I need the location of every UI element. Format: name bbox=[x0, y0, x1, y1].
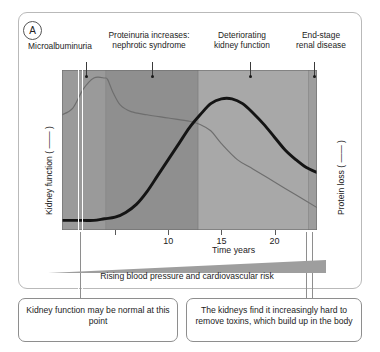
callout-kidney-function-normal: Kidney function may be normal at this po… bbox=[18, 298, 178, 342]
x-axis-tick-0 bbox=[115, 230, 116, 235]
y-axis-left-label: Kidney function ( —— ) bbox=[44, 126, 54, 215]
stage-leader-line-3 bbox=[314, 62, 315, 76]
stage-band-2 bbox=[198, 70, 309, 230]
stage-label-proteinuria: Proteinuria increases: nephrotic syndrom… bbox=[101, 30, 197, 50]
x-axis-tick-label-20: 20 bbox=[261, 236, 289, 246]
stage-leader-line-0 bbox=[86, 62, 87, 76]
stage-leader-line-2 bbox=[250, 62, 251, 76]
stage-leader-dot-1 bbox=[151, 75, 154, 78]
x-axis-tick-label-10: 10 bbox=[154, 236, 182, 246]
plot-svg bbox=[62, 70, 317, 230]
stage-label-microalbuminuria: Microalbuminuria bbox=[18, 41, 102, 51]
x-axis-caption: Time years bbox=[212, 245, 255, 255]
x-axis-tick-2 bbox=[221, 230, 222, 235]
risk-wedge-caption: Rising blood pressure and cardiovascular… bbox=[62, 271, 312, 281]
panel-letter-badge: A bbox=[23, 21, 42, 40]
stage-leader-dot-0 bbox=[85, 75, 88, 78]
figure-root: A Microalbuminuria Proteinuria increases… bbox=[0, 0, 380, 352]
stage-band-3 bbox=[309, 70, 318, 230]
stage-label-deteriorating-kidney-function: Deteriorating kidney function bbox=[203, 30, 281, 50]
x-axis-tick-3 bbox=[275, 230, 276, 235]
x-axis-tick-1 bbox=[168, 230, 169, 235]
callout-toxin-buildup: The kidneys find it increasingly hard to… bbox=[186, 298, 362, 342]
stage-leader-line-1 bbox=[152, 62, 153, 76]
stage-label-end-stage-renal-disease: End-stage renal disease bbox=[288, 30, 354, 50]
stage-leader-dot-2 bbox=[249, 75, 252, 78]
stage-band-0 bbox=[62, 70, 106, 230]
stage-band-1 bbox=[106, 70, 198, 230]
y-axis-right-label: Protein loss ( —— ) bbox=[336, 140, 346, 215]
stage-leader-dot-3 bbox=[313, 75, 316, 78]
plot-area bbox=[62, 70, 317, 230]
